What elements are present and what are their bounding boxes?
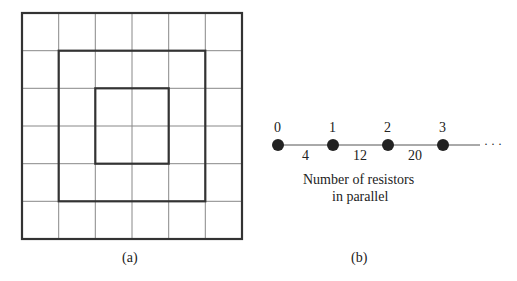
node-label-2: 2 bbox=[384, 120, 391, 136]
caption-b: (b) bbox=[351, 250, 367, 266]
node-label-0: 0 bbox=[274, 120, 281, 136]
node-label-1: 1 bbox=[329, 120, 336, 136]
description-line2: in parallel bbox=[332, 189, 388, 205]
edge-label-12: 12 bbox=[353, 148, 367, 164]
edge-label-20: 20 bbox=[408, 148, 422, 164]
node-3 bbox=[437, 139, 449, 151]
node-0 bbox=[272, 139, 284, 151]
node-2 bbox=[382, 139, 394, 151]
node-label-3: 3 bbox=[439, 120, 446, 136]
edge-label-4: 4 bbox=[302, 148, 309, 164]
grid-diagram bbox=[0, 0, 517, 281]
description-line1: Number of resistors bbox=[303, 172, 414, 188]
caption-a: (a) bbox=[122, 250, 138, 266]
ellipsis: · · · bbox=[484, 136, 502, 152]
node-1 bbox=[327, 139, 339, 151]
